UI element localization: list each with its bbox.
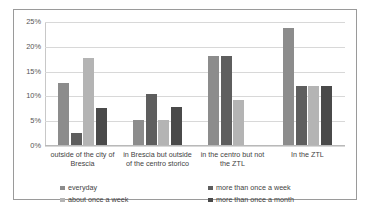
bar <box>133 120 144 145</box>
gridline <box>45 146 345 147</box>
bar <box>96 108 107 145</box>
bar <box>221 56 232 145</box>
chart-frame: 0%5%10%15%20%25% outside of the city of … <box>13 9 357 200</box>
y-axis-tick-label: 20% <box>7 43 41 50</box>
legend-label: about once a week <box>68 196 128 204</box>
bar-group <box>45 21 120 145</box>
legend-item[interactable]: about once a week <box>60 196 128 204</box>
chart-legend: everydaymore than once a weekabout once … <box>60 184 350 206</box>
legend-item[interactable]: more than once a week <box>208 184 291 192</box>
x-axis-category-label: In the ZTL <box>270 150 345 159</box>
x-axis-category-label: outside of the city of Brescia <box>45 150 120 169</box>
y-axis-tick-label: 5% <box>7 117 41 124</box>
x-axis-category-label: in the centro but not the ZTL <box>195 150 270 169</box>
bar <box>71 133 82 145</box>
y-axis-tick-label: 15% <box>7 68 41 75</box>
legend-swatch-icon <box>60 198 65 203</box>
bar <box>158 120 169 145</box>
bar <box>171 107 182 145</box>
legend-label: everyday <box>68 184 97 192</box>
bar-group <box>120 21 195 145</box>
legend-label: more than once a week <box>216 184 291 192</box>
x-axis-category-label: in Brescia but outside of the centro sto… <box>120 150 195 169</box>
legend-item[interactable]: everyday <box>60 184 97 192</box>
legend-swatch-icon <box>60 186 65 191</box>
legend-swatch-icon <box>208 198 213 203</box>
plot-area: 0%5%10%15%20%25% <box>45 22 345 146</box>
y-axis-tick-label: 0% <box>7 142 41 149</box>
bar-group <box>195 21 270 145</box>
bar <box>233 100 244 145</box>
bar <box>283 28 294 145</box>
bar <box>296 86 307 145</box>
bar <box>146 94 157 145</box>
y-axis-tick-label: 10% <box>7 92 41 99</box>
legend-label: more than once a month <box>216 196 294 204</box>
bar <box>208 56 219 145</box>
bar <box>58 83 69 145</box>
legend-item[interactable]: more than once a month <box>208 196 294 204</box>
legend-swatch-icon <box>208 186 213 191</box>
y-axis-tick-label: 25% <box>7 18 41 25</box>
bar <box>83 58 94 145</box>
bar <box>321 86 332 145</box>
x-axis-category-labels: outside of the city of Bresciain Brescia… <box>45 150 345 184</box>
bar <box>308 86 319 145</box>
bar-group <box>270 21 345 145</box>
